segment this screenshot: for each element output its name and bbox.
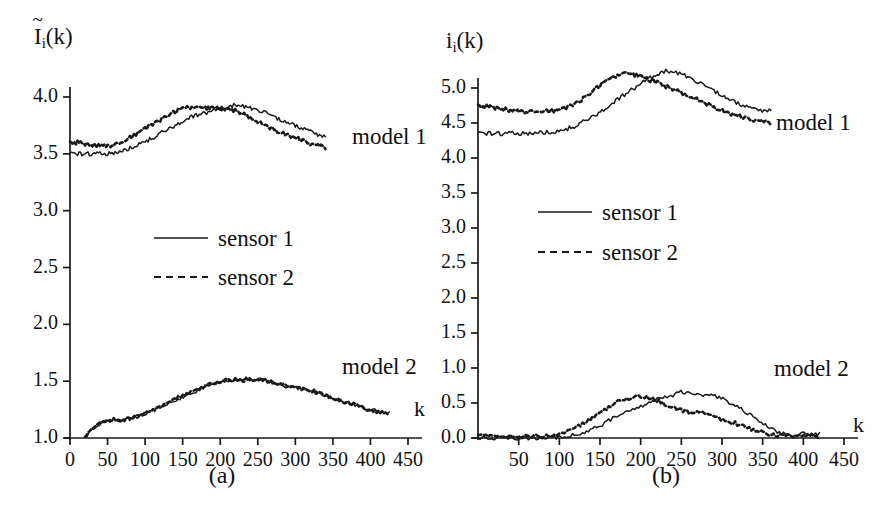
series-line <box>85 379 389 438</box>
panel-b-legend-label-sensor-2: sensor 2 <box>602 240 678 266</box>
ytick-label: 2.0 <box>0 311 58 334</box>
ytick-label: 2.0 <box>400 285 466 308</box>
panel-a-legend-label-sensor-1: sensor 1 <box>218 226 294 252</box>
ytick-label: 1.0 <box>0 425 58 448</box>
panel-a-caption: (a) <box>0 462 444 489</box>
ytick-label: 2.5 <box>0 255 58 278</box>
ytick-label: 1.5 <box>0 368 58 391</box>
ytick-label: 5.0 <box>400 75 466 98</box>
ytick-label: 3.0 <box>0 198 58 221</box>
ytick-label: 4.0 <box>400 145 466 168</box>
panel-b-model-2-label: model 2 <box>774 356 849 382</box>
panel-b-legend-label-sensor-1: sensor 1 <box>602 200 678 226</box>
ytick-label: 1.0 <box>400 355 466 378</box>
ytick-label: 2.5 <box>400 250 466 273</box>
ytick-label: 0.0 <box>400 425 466 448</box>
figure-root: ~Ii(k) 1.01.52.02.53.03.54.0 05010015020… <box>0 0 888 520</box>
panel-b-xlabel: k <box>853 412 864 438</box>
ytick-label: 4.0 <box>0 84 58 107</box>
panel-a-plot <box>0 0 444 520</box>
series-line <box>478 69 771 135</box>
ytick-label: 3.5 <box>0 141 58 164</box>
ytick-label: 3.5 <box>400 180 466 203</box>
ytick-label: 1.5 <box>400 320 466 343</box>
panel-b-model-1-label: model 1 <box>776 110 851 136</box>
panel-b: ii(k) 0.00.51.01.52.02.53.03.54.04.55.0 … <box>444 0 888 520</box>
panel-a-legend-label-sensor-2: sensor 2 <box>218 265 294 291</box>
series-line <box>85 378 389 437</box>
panel-a: ~Ii(k) 1.01.52.02.53.03.54.0 05010015020… <box>0 0 444 520</box>
ytick-label: 4.5 <box>400 110 466 133</box>
series-line <box>70 104 325 156</box>
ytick-label: 0.5 <box>400 390 466 413</box>
ytick-label: 3.0 <box>400 215 466 238</box>
series-line <box>70 106 325 149</box>
panel-b-caption: (b) <box>444 462 888 489</box>
